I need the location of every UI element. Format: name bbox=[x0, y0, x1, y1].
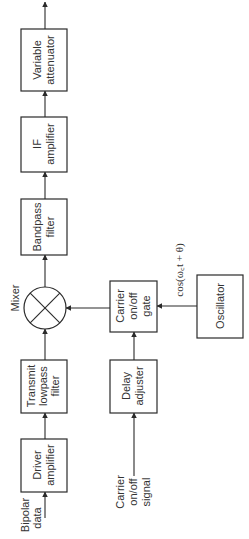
carrier-gate-label-2: on/off bbox=[127, 291, 139, 319]
transmit-lowpass-label-1: Transmit bbox=[25, 365, 37, 407]
carrier-signal-input: Carrier on/off signal bbox=[114, 475, 152, 509]
block-diagram: Variable attenuator IF amplifier Bandpas… bbox=[0, 0, 249, 539]
carrier-gate-label-3: gate bbox=[140, 295, 152, 316]
driver-amplifier-block: Driver amplifier bbox=[21, 439, 67, 492]
if-amplifier-label-2: amplifier bbox=[44, 123, 56, 165]
if-amplifier-block: IF amplifier bbox=[21, 117, 67, 172]
carrier-signal-label-1: Carrier bbox=[114, 475, 126, 509]
carrier-gate-label-1: Carrier bbox=[114, 289, 126, 323]
variable-attenuator-block: Variable attenuator bbox=[21, 29, 67, 91]
bipolar-data-label-2: data bbox=[31, 506, 43, 528]
driver-amplifier-label-2: amplifier bbox=[44, 444, 56, 486]
mixer-label: Mixer bbox=[9, 284, 21, 311]
bipolar-data-label-1: Bipolar bbox=[19, 498, 31, 533]
bandpass-filter-label-2: filter bbox=[44, 216, 56, 237]
oscillator-signal-label: cos(ω꜀t + θ) bbox=[173, 243, 186, 297]
oscillator-block: Oscillator bbox=[197, 275, 243, 338]
transmit-lowpass-filter-block: Transmit lowpass filter bbox=[21, 360, 67, 413]
carrier-signal-label-3: signal bbox=[140, 478, 152, 507]
variable-attenuator-label-2: attenuator bbox=[44, 35, 56, 85]
bandpass-filter-label-1: Bandpass bbox=[31, 202, 43, 251]
if-amplifier-label-1: IF bbox=[31, 139, 43, 149]
delay-adjuster-block: Delay adjuster bbox=[110, 360, 157, 413]
carrier-gate-block: Carrier on/off gate bbox=[110, 281, 157, 332]
oscillator-label: Oscillator bbox=[214, 283, 226, 329]
driver-amplifier-label-1: Driver bbox=[31, 450, 43, 480]
delay-adjuster-label-2: adjuster bbox=[133, 366, 145, 405]
transmit-lowpass-label-3: filter bbox=[49, 375, 61, 396]
carrier-signal-label-2: on/off bbox=[127, 477, 139, 505]
bipolar-data-input: Bipolar data bbox=[19, 498, 43, 533]
mixer: Mixer bbox=[9, 284, 66, 329]
transmit-lowpass-label-2: lowpass bbox=[37, 366, 49, 406]
bandpass-filter-block: Bandpass filter bbox=[21, 199, 67, 255]
variable-attenuator-label-1: Variable bbox=[31, 40, 43, 80]
delay-adjuster-label-1: Delay bbox=[120, 371, 132, 400]
